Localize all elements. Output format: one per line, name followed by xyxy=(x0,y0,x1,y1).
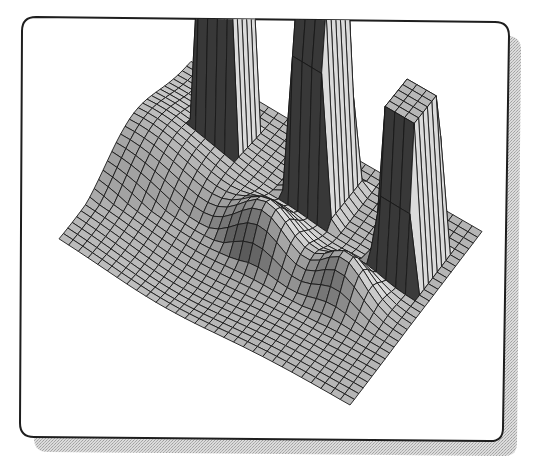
surface-plot-figure xyxy=(0,0,536,476)
